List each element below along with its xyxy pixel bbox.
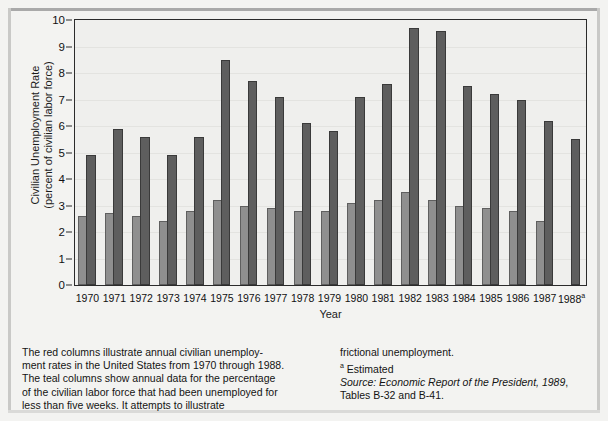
bar-red [544, 121, 554, 285]
chart-area: Civilian Unemployment Rate (percent of c… [14, 12, 594, 322]
caption-line: ment rates in the United States from 197… [22, 359, 322, 372]
y-axis-tick-mark [66, 99, 72, 100]
y-axis-tick-label: 10 [25, 14, 65, 26]
bar-red [248, 81, 258, 285]
bar-red [140, 137, 150, 285]
bar-red [517, 100, 527, 286]
x-axis-title: Year [74, 308, 587, 320]
frame-border-top [8, 8, 600, 11]
y-axis-tick-label: 5 [25, 147, 65, 159]
bar-red [275, 97, 285, 285]
y-axis-tick-label: 1 [25, 253, 65, 265]
y-axis-tick-label: 4 [25, 173, 65, 185]
bar-red [167, 155, 177, 285]
x-axis-tick-label: 1980 [345, 292, 368, 304]
x-axis-tick-label: 1981 [372, 292, 395, 304]
y-axis-tick-label: 8 [25, 67, 65, 79]
y-axis-tick-mark [66, 179, 72, 180]
caption-line: of the civilian labor force that had bee… [22, 386, 322, 399]
bar-red [113, 129, 123, 285]
bar-series-container [75, 20, 586, 285]
y-axis-tick-label: 6 [25, 120, 65, 132]
bar-red [329, 131, 339, 285]
y-axis-tick-mark [66, 152, 72, 153]
bar-red [86, 155, 96, 285]
x-axis-tick-label: 1970 [76, 292, 99, 304]
x-axis-tick-label: 1984 [452, 292, 475, 304]
x-axis-tick-label: 1985 [479, 292, 502, 304]
y-axis-tick-mark [66, 46, 72, 47]
y-axis-tick-mark [66, 73, 72, 74]
frame-border-right [597, 8, 600, 413]
caption-line: The teal columns show annual data for th… [22, 372, 322, 385]
y-axis-tick-label: 2 [25, 226, 65, 238]
y-axis-tick-mark [66, 126, 72, 127]
bar-red [355, 97, 365, 285]
x-axis-tick-label: 1973 [156, 292, 179, 304]
y-axis-tick-mark [66, 232, 72, 233]
bar-red [409, 28, 419, 285]
y-axis-tick-mark [66, 258, 72, 259]
figure-container: Civilian Unemployment Rate (percent of c… [0, 0, 608, 421]
x-axis-tick-labels: 1970197119721973197419751976197719781979… [74, 292, 587, 308]
bar-red [436, 31, 446, 285]
x-axis-tick-label: 1971 [103, 292, 126, 304]
caption-line: less than five weeks. It attempts to ill… [22, 399, 322, 412]
y-axis-tick-mark [66, 20, 72, 21]
x-axis-tick-label: 1988a [558, 292, 585, 305]
caption-footnote-line: a Estimated [340, 359, 588, 376]
figure-caption: The red columns illustrate annual civili… [22, 346, 588, 410]
x-axis-tick-label: 1979 [318, 292, 341, 304]
y-axis-tick-label: 0 [25, 279, 65, 291]
x-axis-tick-label: 1972 [130, 292, 153, 304]
bar-red [194, 137, 204, 285]
y-axis-tick-label: 3 [25, 200, 65, 212]
x-axis-tick-label: 1976 [237, 292, 260, 304]
caption-line: The red columns illustrate annual civili… [22, 346, 322, 359]
plot-area [74, 19, 587, 286]
y-axis-tick-mark [66, 285, 72, 286]
caption-frictional-line: frictional unemployment. [340, 346, 588, 359]
y-axis-tick-label: 7 [25, 94, 65, 106]
x-axis-tick-label: 1987 [533, 292, 556, 304]
x-axis-tick-label: 1974 [183, 292, 206, 304]
bar-red [463, 86, 473, 285]
bar-red [571, 139, 581, 285]
bar-red [221, 60, 231, 285]
bar-red [490, 94, 500, 285]
frame-border-left [8, 8, 11, 413]
x-axis-tick-label: 1982 [398, 292, 421, 304]
x-axis-tick-label: 1986 [506, 292, 529, 304]
source-italic-text: Source: Economic Report of the President… [340, 376, 565, 388]
bar-red [382, 84, 392, 285]
x-axis-footnote-marker: a [581, 292, 585, 299]
x-axis-tick-label: 1977 [264, 292, 287, 304]
caption-left-column: The red columns illustrate annual civili… [22, 346, 322, 412]
caption-right-column: frictional unemployment. a Estimated Sou… [340, 346, 588, 402]
bar-red [302, 123, 312, 285]
y-axis-tick-label: 9 [25, 41, 65, 53]
y-axis-ticks: 012345678910 [14, 12, 74, 287]
caption-source-line: Source: Economic Report of the President… [340, 376, 588, 402]
y-axis-tick-mark [66, 205, 72, 206]
x-axis-tick-label: 1983 [425, 292, 448, 304]
x-axis-tick-label: 1975 [210, 292, 233, 304]
footnote-text: Estimated [344, 363, 394, 375]
x-axis-tick-label: 1978 [291, 292, 314, 304]
